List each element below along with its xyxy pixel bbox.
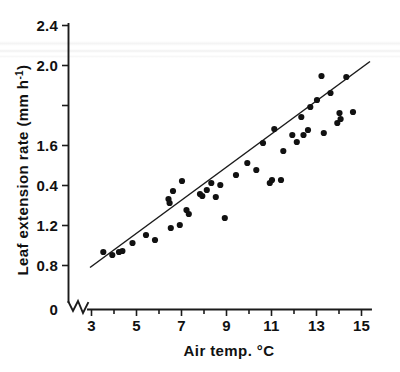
data-point	[100, 249, 106, 255]
y-axis-break-zigzag	[69, 301, 89, 313]
data-point	[199, 193, 205, 199]
x-tick-labels: 3 5 7 9 11 13 15	[87, 317, 370, 334]
data-point	[179, 178, 185, 184]
data-point	[143, 232, 149, 238]
y-tick-label: 1.6	[37, 137, 58, 154]
data-point	[327, 90, 333, 96]
data-point	[338, 116, 344, 122]
x-tick-label: 9	[222, 317, 231, 334]
data-point	[343, 74, 349, 80]
y-axis-title-tail: )	[14, 65, 31, 70]
scatter-plot: 2.4 2.0 1.6 1.2 0.8 0.4 0	[0, 0, 400, 372]
data-point	[271, 126, 277, 132]
x-tick-label: 7	[177, 317, 186, 334]
data-point	[168, 225, 174, 231]
x-axis-title: Air temp. °C	[184, 342, 275, 359]
data-point	[152, 237, 158, 243]
y-tick-label: 0.4	[37, 177, 59, 194]
data-point	[318, 73, 324, 79]
data-point	[204, 187, 210, 193]
y-axis-title: Leaf extension rate (mm h-1)	[14, 65, 31, 276]
data-point	[177, 222, 183, 228]
y-zero-label: 0	[49, 301, 58, 318]
data-point	[300, 132, 306, 138]
y-tick-label: 0.8	[37, 257, 58, 274]
data-point	[294, 139, 300, 145]
data-point	[289, 132, 295, 138]
data-point	[217, 182, 223, 188]
data-point	[213, 194, 219, 200]
x-tick-label: 5	[132, 317, 141, 334]
data-point	[280, 148, 286, 154]
data-point	[278, 177, 284, 183]
y-axis-title-superscript: -1	[14, 70, 25, 80]
data-point	[170, 188, 176, 194]
x-tick-label: 15	[353, 317, 370, 334]
data-point	[119, 248, 125, 254]
data-point	[314, 97, 320, 103]
data-point	[222, 215, 228, 221]
data-point	[253, 167, 259, 173]
figure-container: 2.4 2.0 1.6 1.2 0.8 0.4 0	[0, 0, 400, 372]
data-point	[233, 172, 239, 178]
data-point	[109, 252, 115, 258]
y-tick-label: 1.2	[37, 217, 58, 234]
data-point	[167, 200, 173, 206]
data-point	[350, 109, 356, 115]
data-point	[307, 104, 313, 110]
x-tick-label: 3	[87, 317, 96, 334]
data-point	[244, 160, 250, 166]
data-point	[298, 114, 304, 120]
data-point	[129, 240, 135, 246]
data-point	[260, 140, 266, 146]
y-tick-label: 2.0	[37, 57, 58, 74]
x-tick-label: 13	[308, 317, 325, 334]
y-tick-label: 2.4	[37, 17, 59, 34]
data-point	[208, 180, 214, 186]
data-point	[305, 127, 311, 133]
x-tick-label: 11	[263, 317, 279, 334]
y-tick-labels: 2.4 2.0 1.6 1.2 0.8 0.4 0	[37, 17, 59, 318]
x-axis-major-ticks	[92, 310, 362, 317]
data-point	[321, 130, 327, 136]
data-point	[269, 177, 275, 183]
data-point	[186, 211, 192, 217]
svg-text:Leaf extension rate (mm h-1): Leaf extension rate (mm h-1)	[14, 65, 31, 276]
data-point	[336, 110, 342, 116]
y-axis-ticks	[62, 26, 69, 266]
y-axis-title-main: Leaf extension rate (mm h	[14, 80, 31, 276]
